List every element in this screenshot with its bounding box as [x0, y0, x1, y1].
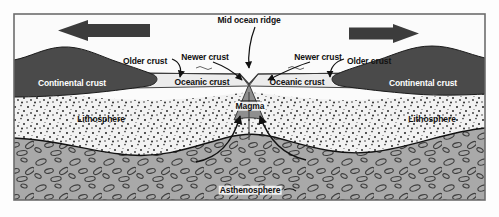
- label-magma: Magma: [235, 102, 266, 111]
- seafloor-spreading-diagram: Mid ocean ridge Newer crust Newer crust …: [0, 0, 499, 217]
- label-newer-crust-left: Newer crust: [181, 53, 229, 62]
- label-lithosphere-left: Lithosphere: [77, 115, 125, 124]
- label-continental-crust-left: Continental crust: [38, 79, 106, 88]
- label-asthenosphere: Asthenosphere: [219, 186, 282, 195]
- label-lithosphere-right: Lithosphere: [408, 115, 456, 124]
- label-oceanic-crust-right: Oceanic crust: [270, 78, 325, 87]
- label-newer-crust-right: Newer crust: [294, 53, 342, 62]
- left-spreading-arrow: [58, 20, 150, 41]
- label-mid-ocean-ridge: Mid ocean ridge: [217, 16, 280, 25]
- label-older-crust-left: Older crust: [123, 57, 167, 66]
- label-oceanic-crust-left: Oceanic crust: [175, 78, 230, 87]
- right-spreading-arrow: [349, 24, 419, 43]
- label-continental-crust-right: Continental crust: [389, 79, 457, 88]
- label-older-crust-right: Older crust: [347, 57, 391, 66]
